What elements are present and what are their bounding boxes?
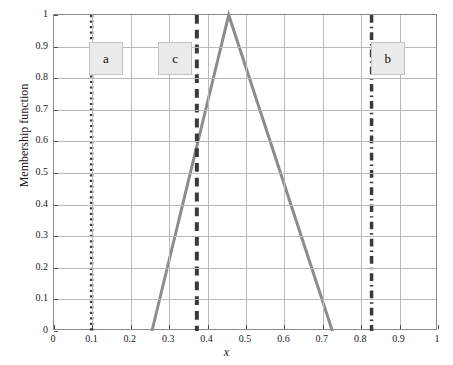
chart-figure: 00.10.20.30.40.50.60.70.80.9100.10.20.30… — [0, 0, 453, 365]
x-gridline — [284, 15, 285, 329]
y-tick-mark — [54, 268, 58, 269]
x-tick-label: 0.9 — [379, 333, 419, 344]
y-tick-label: 1 — [8, 8, 48, 19]
x-tick-mark — [284, 325, 285, 329]
x-tick-mark — [92, 325, 93, 329]
x-tick-label: 0.6 — [263, 333, 303, 344]
x-tick-label: 0.2 — [110, 333, 150, 344]
x-tick-label: 1 — [417, 333, 453, 344]
y-tick-mark — [54, 236, 58, 237]
x-tick-mark — [246, 325, 247, 329]
y-gridline — [54, 110, 436, 111]
y-gridline — [54, 173, 436, 174]
x-tick-mark — [400, 325, 401, 329]
y-tick-mark — [54, 331, 58, 332]
x-axis-label: x — [0, 345, 453, 360]
y-gridline — [54, 299, 436, 300]
x-tick-mark — [323, 325, 324, 329]
annotation-label-c: c — [158, 42, 192, 75]
annotation-label-b: b — [371, 42, 405, 75]
x-tick-label: 0.8 — [340, 333, 380, 344]
y-gridline — [54, 141, 436, 142]
y-tick-mark — [54, 15, 58, 16]
y-tick-mark — [54, 141, 58, 142]
x-tick-mark — [54, 325, 55, 329]
x-gridline — [131, 15, 132, 329]
y-tick-label: 0.2 — [8, 261, 48, 272]
x-tick-label: 0.4 — [187, 333, 227, 344]
x-gridline — [323, 15, 324, 329]
x-tick-mark — [169, 325, 170, 329]
x-tick-label: 0.1 — [71, 333, 111, 344]
y-tick-mark — [54, 173, 58, 174]
x-gridline — [246, 15, 247, 329]
y-tick-label: 0.1 — [8, 292, 48, 303]
y-tick-label: 0.3 — [8, 229, 48, 240]
y-gridline — [54, 268, 436, 269]
x-tick-label: 0.7 — [302, 333, 342, 344]
x-gridline — [208, 15, 209, 329]
y-gridline — [54, 78, 436, 79]
x-tick-mark — [438, 325, 439, 329]
x-gridline — [361, 15, 362, 329]
y-tick-mark — [54, 78, 58, 79]
y-tick-mark — [54, 205, 58, 206]
y-tick-label: 0 — [8, 324, 48, 335]
y-gridline — [54, 236, 436, 237]
x-tick-label: 0.3 — [148, 333, 188, 344]
y-tick-mark — [54, 299, 58, 300]
x-tick-mark — [131, 325, 132, 329]
y-tick-mark — [54, 110, 58, 111]
annotation-label-a: a — [89, 42, 123, 75]
y-gridline — [54, 205, 436, 206]
y-axis-label: Membership function — [17, 46, 32, 226]
x-tick-mark — [208, 325, 209, 329]
x-tick-label: 0.5 — [225, 333, 265, 344]
y-tick-mark — [54, 47, 58, 48]
x-tick-mark — [361, 325, 362, 329]
